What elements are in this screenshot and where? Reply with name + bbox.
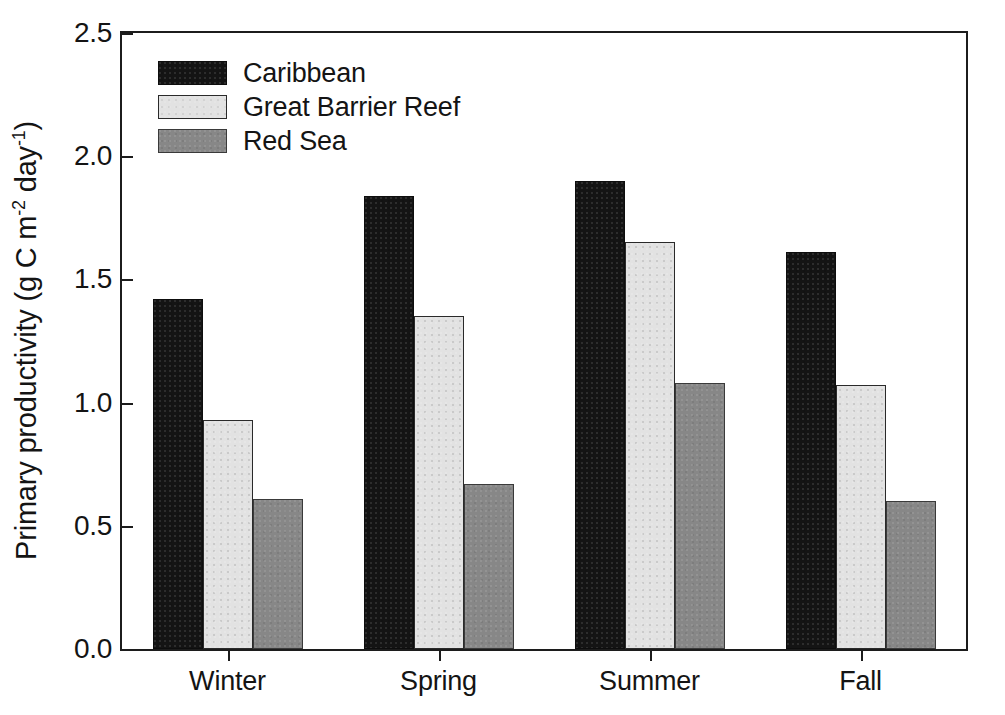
bar-spring-great-barrier-reef: [414, 316, 464, 649]
legend-item-red-sea: Red Sea: [158, 124, 460, 158]
x-tick-label: Winter: [189, 666, 266, 697]
bar-spring-red-sea: [464, 484, 514, 649]
y-tick-mark: [122, 649, 133, 651]
legend-item-great-barrier-reef: Great Barrier Reef: [158, 90, 460, 124]
y-axis-title-exponent-1: -2: [9, 200, 29, 216]
bar-fall-red-sea: [886, 501, 936, 649]
bar-summer-red-sea: [675, 383, 725, 649]
bar-winter-caribbean: [153, 299, 203, 649]
bar-winter-great-barrier-reef: [203, 420, 253, 649]
chart-legend: Caribbean Great Barrier Reef Red Sea: [158, 56, 460, 158]
legend-label-red-sea: Red Sea: [243, 126, 347, 157]
legend-swatch-icon-caribbean: [158, 61, 227, 85]
y-tick-label: 1.0: [40, 387, 112, 419]
y-tick-mark: [122, 279, 133, 281]
y-tick-mark: [122, 33, 133, 35]
legend-swatch-icon-red-sea: [158, 129, 227, 153]
y-tick-label: 2.0: [40, 140, 112, 172]
y-tick-mark: [122, 526, 133, 528]
x-tick-mark: [650, 649, 652, 661]
y-tick-label: 0.5: [40, 510, 112, 542]
legend-label-great-barrier-reef: Great Barrier Reef: [243, 92, 460, 123]
y-tick-label: 0.0: [40, 633, 112, 665]
x-tick-mark: [439, 649, 441, 661]
legend-swatch-icon-great-barrier-reef: [158, 95, 227, 119]
x-tick-label: Summer: [599, 666, 700, 697]
bar-fall-caribbean: [786, 252, 836, 649]
bar-summer-great-barrier-reef: [625, 242, 675, 649]
y-axis-title-exponent-2: -1: [9, 130, 29, 146]
y-tick-label: 2.5: [40, 17, 112, 49]
x-tick-mark: [228, 649, 230, 661]
x-tick-label: Fall: [839, 666, 882, 697]
bar-fall-great-barrier-reef: [836, 385, 886, 649]
y-tick-label: 1.5: [40, 263, 112, 295]
legend-item-caribbean: Caribbean: [158, 56, 460, 90]
bar-summer-caribbean: [575, 181, 625, 649]
x-tick-mark: [861, 649, 863, 661]
chart-figure: Primary productivity (g C m-2 day-1) 0.0…: [0, 0, 1005, 715]
y-axis-tick-labels: 0.00.51.01.52.02.5: [30, 0, 112, 715]
bar-spring-caribbean: [364, 196, 414, 649]
bar-winter-red-sea: [253, 499, 303, 649]
legend-label-caribbean: Caribbean: [243, 58, 366, 89]
plot-area: Caribbean Great Barrier Reef Red Sea: [120, 31, 968, 651]
y-tick-mark: [122, 403, 133, 405]
x-tick-label: Spring: [400, 666, 477, 697]
y-tick-mark: [122, 156, 133, 158]
